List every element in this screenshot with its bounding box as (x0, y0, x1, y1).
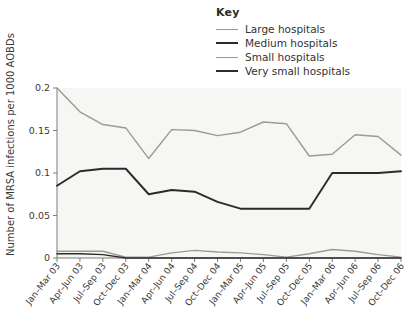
y-axis-tick-label: 0.2 (35, 82, 50, 93)
y-axis-tick-label: 0.05 (29, 210, 50, 221)
y-axis-tick-label: 0.15 (29, 125, 50, 136)
plot-area-wrapper: 00.050.10.150.2 Jan–Mar 03Apr–Jun 03Jul–… (0, 0, 414, 333)
y-axis-ticks: 00.050.10.150.2 (29, 82, 57, 263)
y-axis-title: Number of MRSA infections per 1000 AOBDs (5, 33, 16, 256)
y-axis-tick-label: 0 (44, 252, 50, 263)
y-axis-tick-label: 0.1 (35, 167, 50, 178)
mrsa-line-chart: Key Large hospitalsMedium hospitalsSmall… (0, 0, 414, 333)
x-axis-tick-labels: Jan–Mar 03Apr–Jun 03Jul–Sep 03Oct–Dec 03… (23, 261, 406, 308)
chart-svg: 00.050.10.150.2 Jan–Mar 03Apr–Jun 03Jul–… (0, 0, 414, 333)
